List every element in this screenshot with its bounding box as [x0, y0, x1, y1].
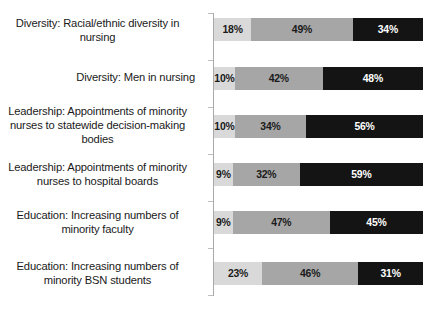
- bar-segment-label: 18%: [223, 24, 243, 35]
- category-label: Leadership: Appointments of minority nur…: [0, 104, 203, 147]
- stacked-bar-chart: Diversity: Racial/ethnic diversity in nu…: [0, 0, 439, 311]
- bar-segment-label: 56%: [354, 121, 374, 132]
- stacked-bar[interactable]: 10%34%56%: [214, 115, 423, 138]
- category-axis-line: [213, 13, 214, 296]
- bar-segment-label: 23%: [228, 268, 248, 279]
- bar-segment[interactable]: 34%: [235, 115, 306, 138]
- plot-area: Diversity: Racial/ethnic diversity in nu…: [0, 0, 439, 311]
- axis-tick: [208, 201, 213, 202]
- bar-segment[interactable]: 34%: [353, 18, 423, 41]
- axis-tick: [208, 295, 213, 296]
- axis-tick: [208, 60, 213, 61]
- bar-segment-label: 9%: [216, 217, 231, 228]
- bar-segment-label: 46%: [300, 268, 320, 279]
- axis-tick: [208, 248, 213, 249]
- bar-segment[interactable]: 10%: [214, 115, 235, 138]
- bar-segment[interactable]: 59%: [300, 163, 423, 186]
- bar-segment-label: 10%: [214, 121, 234, 132]
- bar-segment[interactable]: 31%: [358, 262, 423, 285]
- bar-segment-label: 9%: [216, 169, 231, 180]
- bar-segment[interactable]: 9%: [214, 211, 233, 234]
- category-label: Diversity: Men in nursing: [0, 70, 203, 84]
- stacked-bar[interactable]: 23%46%31%: [214, 262, 423, 285]
- stacked-bar[interactable]: 10%42%48%: [214, 67, 423, 90]
- bar-segment[interactable]: 18%: [214, 18, 251, 41]
- category-label: Education: Increasing numbers of minorit…: [0, 259, 203, 287]
- bar-segment-label: 59%: [351, 169, 371, 180]
- bar-segment[interactable]: 48%: [323, 67, 423, 90]
- stacked-bar[interactable]: 9%47%45%: [214, 211, 423, 234]
- bar-segment[interactable]: 47%: [233, 211, 330, 234]
- bar-segment-label: 10%: [214, 73, 234, 84]
- bar-segment-label: 34%: [378, 24, 398, 35]
- bar-segment-label: 31%: [381, 268, 401, 279]
- bar-segment[interactable]: 32%: [233, 163, 300, 186]
- bar-segment-label: 49%: [292, 24, 312, 35]
- stacked-bar[interactable]: 18%49%34%: [214, 18, 423, 41]
- bar-segment[interactable]: 49%: [251, 18, 352, 41]
- bar-segment-label: 48%: [363, 73, 383, 84]
- bar-segment-label: 42%: [269, 73, 289, 84]
- bar-segment[interactable]: 56%: [306, 115, 423, 138]
- bar-segment-label: 34%: [260, 121, 280, 132]
- bar-segment-label: 47%: [271, 217, 291, 228]
- bar-segment[interactable]: 46%: [262, 262, 358, 285]
- bar-segment[interactable]: 9%: [214, 163, 233, 186]
- bar-segment[interactable]: 42%: [235, 67, 323, 90]
- stacked-bar[interactable]: 9%32%59%: [214, 163, 423, 186]
- bar-segment[interactable]: 23%: [214, 262, 262, 285]
- bar-segment[interactable]: 45%: [330, 211, 423, 234]
- bar-segment-label: 32%: [256, 169, 276, 180]
- axis-tick: [208, 13, 213, 14]
- bar-segment-label: 45%: [366, 217, 386, 228]
- category-label: Leadership: Appointments of minority nur…: [0, 160, 203, 188]
- category-label: Diversity: Racial/ethnic diversity in nu…: [0, 16, 203, 44]
- axis-tick: [208, 154, 213, 155]
- bar-segment[interactable]: 10%: [214, 67, 235, 90]
- category-label: Education: Increasing numbers of minorit…: [0, 208, 203, 236]
